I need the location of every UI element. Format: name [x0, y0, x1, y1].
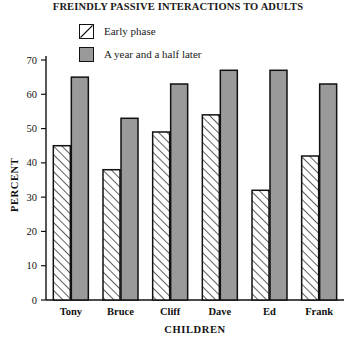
- x-axis-category-label: Cliff: [160, 306, 181, 317]
- bar-dave-year-and-half-later: [220, 70, 237, 300]
- bar-dave-early-phase: [202, 115, 219, 300]
- x-axis-title: CHILDREN: [164, 324, 225, 335]
- x-axis-category-label: Bruce: [107, 306, 134, 317]
- bar-ed-year-and-half-later: [270, 70, 287, 300]
- y-axis-tick-label: 40: [27, 157, 38, 168]
- bar-bruce-year-and-half-later: [121, 118, 138, 300]
- x-axis-category-label: Dave: [208, 306, 231, 317]
- bar-ed-early-phase: [252, 190, 269, 300]
- plot-svg: 010203040506070PERCENTTonyBruceCliffDave…: [0, 0, 356, 348]
- y-axis-tick-label: 50: [27, 123, 38, 134]
- x-axis-category-label: Frank: [305, 306, 333, 317]
- y-axis-tick-label: 30: [27, 192, 38, 203]
- y-axis-tick-label: 0: [32, 295, 37, 306]
- bar-cliff-early-phase: [153, 132, 170, 300]
- y-axis-tick-label: 60: [27, 89, 38, 100]
- x-axis-category-label: Ed: [263, 306, 276, 317]
- plot-area: 010203040506070PERCENTTonyBruceCliffDave…: [0, 0, 356, 348]
- bar-frank-early-phase: [302, 156, 319, 300]
- y-axis-tick-label: 20: [27, 226, 38, 237]
- x-axis-category-label: Tony: [60, 306, 83, 317]
- y-axis-tick-label: 10: [27, 260, 38, 271]
- bar-cliff-year-and-half-later: [171, 84, 188, 300]
- bar-frank-year-and-half-later: [320, 84, 337, 300]
- bar-bruce-early-phase: [103, 170, 120, 300]
- bar-tony-year-and-half-later: [71, 77, 88, 300]
- y-axis-tick-label: 70: [27, 55, 38, 66]
- bar-tony-early-phase: [53, 146, 70, 300]
- y-axis-title: PERCENT: [9, 158, 20, 212]
- bar-chart: FREINDLY PASSIVE INTERACTIONS TO ADULTS …: [0, 0, 356, 348]
